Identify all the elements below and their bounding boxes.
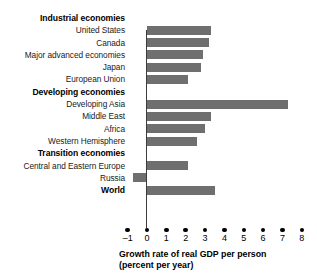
bar-track (147, 63, 201, 72)
bar-track (133, 173, 147, 182)
x-axis-tick-label: 3 (195, 233, 215, 243)
tick-dot-icon (164, 228, 168, 232)
chart-bar-row: Central and Eastern Europe (0, 160, 317, 172)
bar-track (147, 124, 205, 133)
zero-axis-line (146, 30, 147, 228)
bar-category-label: Developing Asia (66, 98, 125, 110)
chart-group-header-row: World (0, 184, 317, 196)
tick-dot-icon (300, 228, 304, 232)
bar (147, 75, 188, 84)
chart-bar-row: Japan (0, 61, 317, 73)
x-axis-tick: –1 (118, 228, 138, 243)
bar-category-label: European Union (66, 73, 125, 85)
bar (147, 63, 201, 72)
chart-bar-row: Developing Asia (0, 98, 317, 110)
bar-category-label: Middle East (82, 110, 125, 122)
x-axis-tick-label: 7 (272, 233, 292, 243)
bar (147, 186, 215, 195)
group-header-label: World (101, 184, 125, 196)
x-axis-tick-label: 0 (137, 233, 157, 243)
bar-category-label: Russia (100, 172, 125, 184)
chart-bar-row: European Union (0, 73, 317, 85)
group-header-label: Industrial economies (40, 12, 125, 24)
chart-bar-row: Western Hemisphere (0, 135, 317, 147)
bar-track (147, 75, 188, 84)
x-axis-tick-label: 8 (292, 233, 312, 243)
tick-dot-icon (203, 228, 207, 232)
bar (147, 124, 205, 133)
bar-track (147, 50, 203, 59)
chart-group-header-row: Developing economies (0, 86, 317, 98)
bar-chart: Industrial economiesUnited StatesCanadaM… (0, 0, 317, 279)
bar-track (147, 112, 211, 121)
tick-dot-icon (242, 228, 246, 232)
x-axis-title-line: (percent per year) (119, 260, 317, 271)
bar (147, 50, 203, 59)
bar (147, 38, 209, 47)
bar (147, 137, 197, 146)
x-axis-tick: 2 (176, 228, 196, 243)
x-axis-tick: 0 (137, 228, 157, 243)
tick-dot-icon (145, 228, 149, 232)
bar-track (147, 137, 197, 146)
x-axis-tick: 6 (253, 228, 273, 243)
bar-track (147, 161, 188, 170)
bar-track (147, 26, 211, 35)
bar-category-label: Africa (104, 123, 125, 135)
x-axis-title: Growth rate of real GDP per person(perce… (119, 249, 317, 270)
x-axis-tick: 4 (214, 228, 234, 243)
chart-bar-row: Major advanced economies (0, 49, 317, 61)
x-axis-tick: 7 (272, 228, 292, 243)
group-header-label: Developing economies (32, 86, 125, 98)
bar (133, 173, 147, 182)
bar-track (147, 38, 209, 47)
bar-category-label: Western Hemisphere (48, 135, 125, 147)
bar (147, 26, 211, 35)
x-axis-tick-label: 1 (156, 233, 176, 243)
bar (147, 100, 288, 109)
x-axis-tick: 1 (156, 228, 176, 243)
tick-dot-icon (183, 228, 187, 232)
chart-bar-row: United States (0, 24, 317, 36)
x-axis-tick: 3 (195, 228, 215, 243)
chart-bar-row: Africa (0, 123, 317, 135)
x-axis-tick-label: 5 (234, 233, 254, 243)
chart-bar-row: Canada (0, 37, 317, 49)
chart-bar-row: Russia (0, 172, 317, 184)
x-axis: –1012345678 (0, 228, 317, 250)
chart-group-header-row: Transition economies (0, 147, 317, 159)
x-axis-tick-label: 4 (214, 233, 234, 243)
bar-category-label: Canada (96, 37, 125, 49)
tick-dot-icon (125, 228, 129, 232)
bar (147, 112, 211, 121)
bar-category-label: United States (76, 24, 125, 36)
x-axis-tick-label: –1 (118, 233, 138, 243)
x-axis-tick: 8 (292, 228, 312, 243)
x-axis-title-line: Growth rate of real GDP per person (119, 249, 317, 260)
x-axis-tick-label: 2 (176, 233, 196, 243)
bar-category-label: Major advanced economies (25, 49, 125, 61)
chart-group-header-row: Industrial economies (0, 12, 317, 24)
x-axis-tick-label: 6 (253, 233, 273, 243)
bar-track (147, 100, 288, 109)
bar-category-label: Central and Eastern Europe (23, 160, 125, 172)
tick-dot-icon (222, 228, 226, 232)
bar (147, 161, 188, 170)
x-axis-tick: 5 (234, 228, 254, 243)
tick-dot-icon (280, 228, 284, 232)
tick-dot-icon (261, 228, 265, 232)
chart-bar-row: Middle East (0, 110, 317, 122)
group-header-label: Transition economies (38, 147, 125, 159)
bar-category-label: Japan (103, 61, 125, 73)
chart-rows: Industrial economiesUnited StatesCanadaM… (0, 12, 317, 196)
bar-track (147, 186, 215, 195)
